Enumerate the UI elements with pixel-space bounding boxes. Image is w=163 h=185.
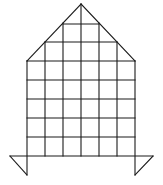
roof-left-slope — [27, 4, 81, 61]
roof-right-slope — [81, 4, 135, 61]
house-lines — [10, 4, 153, 175]
left-foot-diagonal — [10, 156, 27, 175]
grid-house-diagram — [0, 0, 163, 185]
right-foot-diagonal — [135, 156, 153, 175]
